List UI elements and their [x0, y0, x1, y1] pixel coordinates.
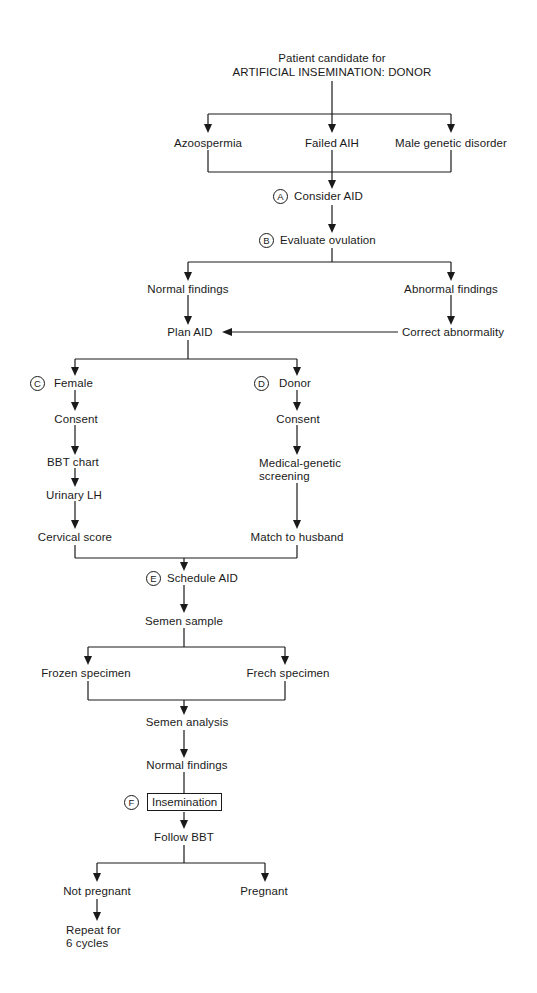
step-marker-f: F	[124, 795, 139, 810]
node-frozen-specimen: Frozen specimen	[41, 667, 131, 680]
step-marker-d: D	[254, 376, 269, 391]
node-match-to-husband: Match to husband	[250, 531, 343, 544]
node-donor-consent: Consent	[276, 413, 320, 426]
node-cervical-score: Cervical score	[38, 531, 112, 544]
node-follow-bbt: Follow BBT	[154, 831, 214, 844]
node-repeat-line-1: Repeat for	[66, 924, 121, 937]
node-urinary-lh: Urinary LH	[46, 489, 102, 502]
node-consider-aid: Consider AID	[294, 190, 363, 203]
node-semen-sample: Semen sample	[145, 615, 223, 628]
node-azoospermia: Azoospermia	[174, 137, 242, 150]
node-female-consent: Consent	[54, 413, 98, 426]
node-insemination: Insemination	[147, 793, 222, 811]
node-correct-abnormality: Correct abnormality	[402, 326, 504, 339]
node-normal-findings: Normal findings	[147, 283, 228, 296]
aid-flowchart: Patient candidate for ARTIFICIAL INSEMIN…	[0, 0, 537, 993]
node-not-pregnant: Not pregnant	[63, 885, 131, 898]
node-pregnant: Pregnant	[240, 885, 287, 898]
node-schedule-aid: Schedule AID	[167, 572, 238, 585]
node-semen-normal-findings: Normal findings	[146, 759, 227, 772]
node-plan-aid: Plan AID	[167, 326, 213, 339]
node-screening: screening	[259, 470, 310, 483]
node-semen-analysis: Semen analysis	[146, 716, 229, 729]
node-abnormal-findings: Abnormal findings	[404, 283, 498, 296]
node-medical-genetic: Medical-genetic	[259, 457, 341, 470]
node-donor: Donor	[279, 377, 311, 390]
step-marker-e: E	[146, 571, 161, 586]
node-male-genetic-disorder: Male genetic disorder	[395, 137, 507, 150]
title-line-2: ARTIFICIAL INSEMINATION: DONOR	[233, 66, 432, 79]
step-marker-a: A	[273, 189, 288, 204]
step-marker-b: B	[259, 233, 274, 248]
node-repeat-line-2: 6 cycles	[66, 937, 108, 950]
node-bbt-chart: BBT chart	[47, 456, 99, 469]
node-evaluate-ovulation: Evaluate ovulation	[280, 234, 376, 247]
node-fresh-specimen: Frech specimen	[246, 667, 329, 680]
title-line-1: Patient candidate for	[278, 52, 386, 65]
node-failed-aih: Failed AIH	[305, 137, 359, 150]
step-marker-c: C	[30, 376, 45, 391]
node-female: Female	[54, 377, 93, 390]
